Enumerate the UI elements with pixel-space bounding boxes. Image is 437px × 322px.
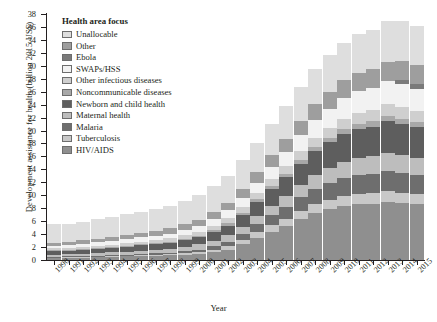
x-tick-mark — [156, 261, 157, 265]
legend-item-label: Ebola — [76, 53, 96, 62]
legend-item[interactable]: Malaria — [62, 121, 172, 133]
legend-swatch-icon — [62, 89, 72, 97]
x-tick-mark — [69, 261, 70, 265]
legend-item-label: Tuberculosis — [76, 134, 120, 143]
x-tick-mark — [272, 261, 273, 265]
legend-item-label: HIV/AIDS — [76, 146, 114, 155]
x-tick-label: 2002 — [227, 256, 245, 274]
legend-item-label: Newborn and child health — [76, 100, 165, 109]
x-tick-label: 1996 — [140, 256, 158, 274]
x-tick-mark — [330, 261, 331, 265]
legend-item-label: Unallocable — [76, 30, 118, 39]
legend-title: Health area focus — [62, 16, 172, 26]
legend-item[interactable]: Other infectious diseases — [62, 75, 172, 87]
legend-swatch-icon — [62, 65, 72, 73]
legend-item-label: Other — [76, 42, 96, 51]
legend-item-label: Maternal health — [76, 111, 130, 120]
x-tick-mark — [388, 261, 389, 265]
legend-swatch-icon — [62, 100, 72, 108]
legend-item[interactable]: Unallocable — [62, 29, 172, 41]
legend-swatch-icon — [62, 135, 72, 143]
x-tick-mark — [127, 261, 128, 265]
legend-item[interactable]: HIV/AIDS — [62, 144, 172, 156]
x-tick-label: 2000 — [198, 256, 216, 274]
legend-item-label: SWAPs/HSS — [76, 65, 120, 74]
x-tick-mark — [243, 261, 244, 265]
x-tick-label: 1998 — [169, 256, 187, 274]
x-axis-title: Year — [0, 303, 437, 313]
legend-item-label: Malaria — [76, 123, 103, 132]
legend-swatch-icon — [62, 31, 72, 39]
legend-item[interactable]: Noncommunicable diseases — [62, 86, 172, 98]
legend-item-label: Noncommunicable diseases — [76, 88, 172, 97]
legend-item-label: Other infectious diseases — [76, 76, 162, 85]
x-tick-label: 1990 — [53, 256, 71, 274]
x-tick-label: 2012 — [372, 256, 390, 274]
legend-item[interactable]: SWAPs/HSS — [62, 63, 172, 75]
x-tick-mark — [301, 261, 302, 265]
legend-item[interactable]: Newborn and child health — [62, 98, 172, 110]
x-tick-label: 2008 — [314, 256, 332, 274]
x-tick-label: 2010 — [343, 256, 361, 274]
legend-swatch-icon — [62, 77, 72, 85]
legend: Health area focus UnallocableOtherEbolaS… — [62, 16, 172, 156]
legend-swatch-icon — [62, 42, 72, 50]
x-tick-label: 2015 — [416, 256, 434, 274]
legend-item[interactable]: Maternal health — [62, 110, 172, 122]
chart-container: Development assistance for health (billi… — [0, 0, 437, 322]
x-tick-mark — [214, 261, 215, 265]
x-tick-label: 1992 — [82, 256, 100, 274]
x-tick-mark — [98, 261, 99, 265]
x-tick-label: 2006 — [285, 256, 303, 274]
x-tick-mark — [417, 261, 418, 265]
x-tick-mark — [359, 261, 360, 265]
x-tick-label: 2014 — [401, 256, 419, 274]
x-tick-label: 1994 — [111, 256, 129, 274]
legend-swatch-icon — [62, 123, 72, 131]
legend-item[interactable]: Ebola — [62, 52, 172, 64]
x-tick-label: 2004 — [256, 256, 274, 274]
x-tick-mark — [185, 261, 186, 265]
legend-item[interactable]: Tuberculosis — [62, 133, 172, 145]
legend-swatch-icon — [62, 54, 72, 62]
legend-swatch-icon — [62, 112, 72, 120]
legend-item[interactable]: Other — [62, 40, 172, 52]
legend-swatch-icon — [62, 146, 72, 154]
